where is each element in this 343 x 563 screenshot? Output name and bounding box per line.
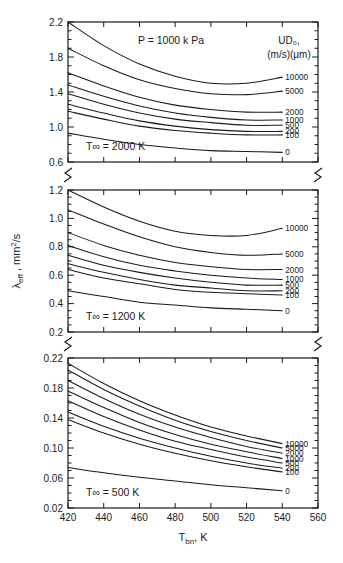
x-axis-title: Tbn, K	[178, 531, 208, 546]
x-tick-label: 500	[203, 512, 220, 523]
figure-container: 0.61.01.41.82.21000050002000100050020010…	[0, 0, 343, 563]
curve-label-100: 100	[285, 291, 299, 300]
x-tick-label: 560	[310, 512, 327, 523]
x-tick-label: 460	[131, 512, 148, 523]
y-tick-label: 0.10	[44, 443, 64, 454]
curve-label-2000: 2000	[285, 266, 304, 275]
panels-group: 0.61.01.41.82.21000050002000100050020010…	[44, 17, 318, 514]
x-tick-label: 420	[60, 512, 77, 523]
y-title-rest: , mm	[10, 247, 22, 275]
y-tick-label: 0.6	[49, 270, 63, 281]
y-tick-label: 0.2	[49, 327, 63, 338]
legend-title-line2: (m/s)(μm)	[267, 49, 311, 60]
y-tick-label: 1.2	[49, 185, 63, 196]
y-tick-label: 2.2	[49, 17, 63, 28]
x-axis-title-sub: bn	[185, 537, 194, 546]
y-title-tail: /s	[10, 233, 22, 242]
y-tick-label: 0.06	[44, 473, 64, 484]
curve-1000	[68, 85, 282, 120]
panel-1: 0.20.40.60.81.01.21000050002000100050020…	[49, 185, 318, 338]
curve-label-10000: 10000	[285, 224, 308, 233]
panel-annotation-2: T∞ = 500 K	[86, 486, 139, 498]
curve-10000	[68, 190, 282, 236]
x-tick-label: 540	[274, 512, 291, 523]
x-tick-label: 440	[95, 512, 112, 523]
axis-break-mark	[64, 337, 72, 351]
curve-label-5000: 5000	[285, 87, 304, 96]
y-tick-label: 0.4	[49, 298, 63, 309]
axis-break-mark	[314, 168, 322, 182]
y-tick-label: 1.8	[49, 52, 63, 63]
y-tick-label: 1.4	[49, 87, 63, 98]
panel-annotation-0: T∞ = 2000 K	[86, 140, 145, 152]
curve-label-100: 100	[285, 468, 299, 477]
panel-annotation-1: T∞ = 1200 K	[86, 310, 145, 322]
axis-break-mark	[64, 168, 72, 182]
curve-500	[68, 255, 282, 285]
y-tick-label: 0.8	[49, 241, 63, 252]
annot-text: T∞ = 1200 K	[86, 310, 145, 322]
x-axis-title-rest: , K	[194, 531, 208, 543]
curve-label-0: 0	[285, 307, 290, 316]
multi-panel-line-chart: 0.61.01.41.82.21000050002000100050020010…	[0, 0, 343, 563]
panel-2: 0.020.060.100.140.180.221000050002000100…	[44, 353, 318, 514]
legend-title-line1: UD₀,	[278, 35, 299, 46]
curve-label-5000: 5000	[285, 250, 304, 259]
curve-10000	[68, 22, 282, 84]
x-tick-label: 480	[167, 512, 184, 523]
y-tick-label: 0.18	[44, 383, 64, 394]
x-tick-label: 520	[238, 512, 255, 523]
curve-5000	[68, 48, 282, 95]
y-tick-label: 1.0	[49, 213, 63, 224]
chart-title: P = 1000 k Pa	[138, 34, 204, 46]
curve-label-0: 0	[285, 487, 290, 496]
axis-break-mark	[314, 337, 322, 351]
y-axis-title: λeff , mm2/s	[9, 233, 25, 288]
curve-2000	[68, 381, 282, 454]
curve-500	[68, 94, 282, 126]
y-tick-label: 1.0	[49, 122, 63, 133]
y-tick-label: 0.22	[44, 353, 64, 364]
y-tick-label: 0.6	[49, 157, 63, 168]
annot-text: T∞ = 500 K	[86, 486, 139, 498]
curve-label-10000: 10000	[285, 73, 308, 82]
annot-text: T∞ = 2000 K	[86, 140, 145, 152]
curve-label-0: 0	[285, 148, 290, 157]
y-tick-label: 0.14	[44, 413, 64, 424]
axis-labels-group: P = 1000 k PaUD₀,(m/s)(μm)42044046048050…	[9, 34, 327, 546]
curve-5000	[68, 210, 282, 255]
curve-label-100: 100	[285, 131, 299, 140]
curve-2000	[68, 73, 282, 113]
